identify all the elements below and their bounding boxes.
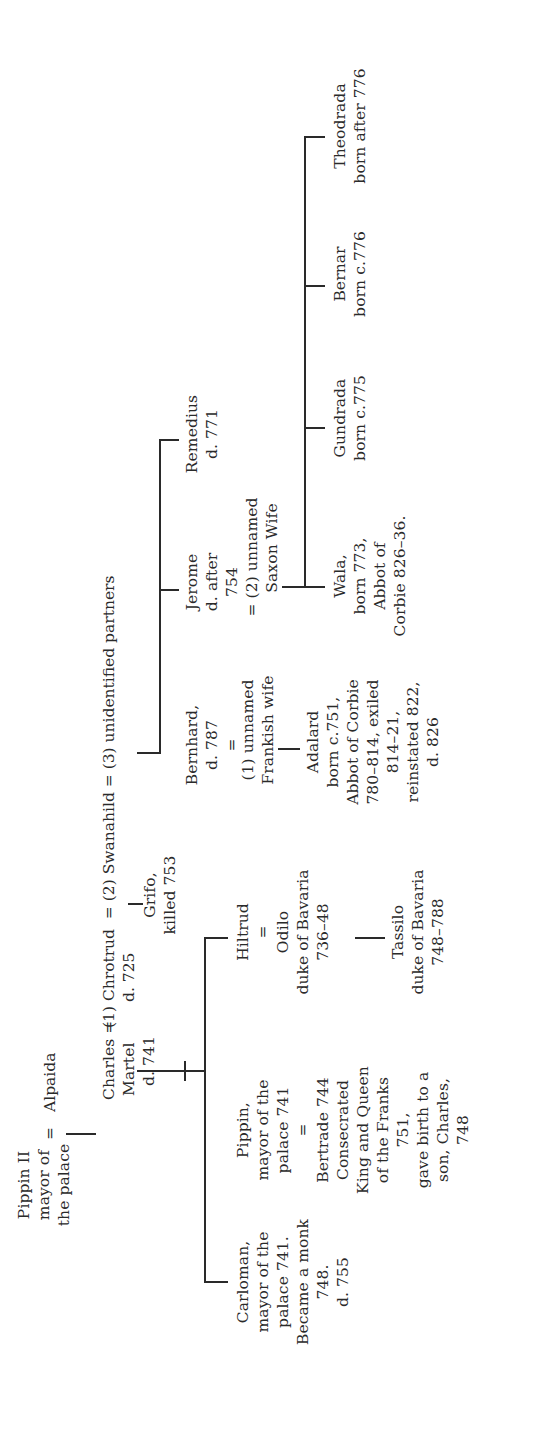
- connector-partners-children: [137, 752, 160, 754]
- node-pippin-bertrade: Pippin, mayor of the palace 741 = Bertra…: [233, 1066, 473, 1194]
- bracket-saxon-children: [304, 136, 306, 588]
- tick-remedius: [159, 439, 179, 441]
- tick-jerome: [159, 589, 179, 591]
- tick-wala: [282, 586, 325, 588]
- tick-hiltrud: [204, 937, 228, 939]
- node-jerome: Jerome d. after 754: [182, 553, 242, 611]
- chrotrud-death: d. 725: [119, 953, 139, 1002]
- node-charles-martel: Charles = Martel d. 741: [99, 1021, 159, 1100]
- bracket-chrotrud-children: [204, 937, 206, 1283]
- node-bernhard: Bernhard, d. 787 =: [182, 705, 242, 785]
- node-pippin-ii: Pippin II mayor of the palace: [14, 1144, 74, 1227]
- node-bernar: Bernar born c.776: [330, 231, 370, 317]
- connector-chrotrud-children-stem: [137, 1070, 204, 1072]
- connector-pippin-ii-charles: [66, 1133, 96, 1135]
- tick-bernar: [304, 285, 325, 287]
- node-remedius: Remedius d. 771: [182, 395, 222, 473]
- tick-theodrada: [304, 136, 325, 138]
- node-carloman: Carloman, mayor of the palace 741. Becam…: [233, 1219, 353, 1345]
- tick-carloman: [204, 1281, 228, 1283]
- node-saxon-wife: = (2) unnamed Saxon Wife: [242, 497, 282, 616]
- marriage-sign-pippin-alpaida: =: [40, 1127, 60, 1140]
- node-wala: Wala, born 773, Abbot of Corbie 826–36.: [330, 516, 410, 637]
- tick-gundrada: [304, 427, 325, 429]
- family-tree-diagram: Pippin II mayor of the palace = Alpaida …: [0, 0, 558, 1442]
- node-gundrada: Gundrada born c.775: [330, 375, 370, 461]
- node-hiltrud-odilo: Hiltrud = Odilo duke of Bavaria 736–48: [233, 869, 333, 994]
- node-alpaida: Alpaida: [40, 1053, 60, 1112]
- spouses-line: (1) Chrotrud = (2) Swanahild = (3) unide…: [99, 576, 119, 1028]
- connector-odilo-tassilo: [355, 937, 385, 939]
- connector-frankish-wife-adalard: [278, 748, 300, 750]
- node-theodrada: Theodrada born after 776: [330, 68, 370, 183]
- node-tassilo: Tassilo duke of Bavaria 748–788: [388, 869, 448, 994]
- node-grifo: Grifo, killed 753: [140, 856, 180, 935]
- node-adalard: Adalard born c.751, Abbot of Corbie 780–…: [303, 679, 443, 805]
- bracket-partners-children: [159, 439, 161, 754]
- node-frankish-wife: (1) unnamed Frankish wife: [238, 675, 278, 784]
